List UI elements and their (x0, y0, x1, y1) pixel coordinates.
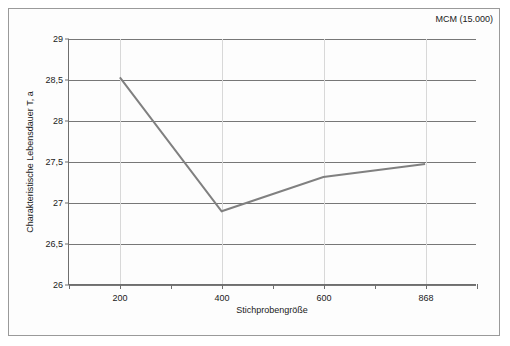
y-tick-label: 27 (53, 198, 69, 208)
series-annotation-label: MCM (15.000) (435, 14, 493, 24)
y-tick-label: 26,5 (45, 239, 69, 249)
y-tick-label: 27,5 (45, 157, 69, 167)
x-tick-label: 200 (112, 284, 127, 303)
x-tick-mark (273, 284, 274, 289)
x-axis-title: Stichprobengröße (68, 305, 476, 315)
y-axis-title: Charakteristische Lebensdauer T, a (23, 39, 37, 285)
x-tick-mark (69, 284, 70, 289)
y-tick-label: 28 (53, 116, 69, 126)
series-line-mcm (69, 39, 476, 284)
y-tick-label: 28,5 (45, 75, 69, 85)
x-tick-mark (171, 284, 172, 289)
y-tick-label: 26 (53, 280, 69, 290)
y-tick-label: 29 (53, 34, 69, 44)
x-tick-mark (477, 284, 478, 289)
x-tick-mark (375, 284, 376, 289)
series-polyline (120, 77, 425, 211)
chart-figure-frame: MCM (15.000) 2928,52827,52726,526 200400… (8, 8, 500, 336)
x-tick-label: 400 (214, 284, 229, 303)
x-tick-label: 600 (316, 284, 331, 303)
x-tick-label: 868 (418, 284, 433, 303)
plot-area: 2928,52827,52726,526 200400600868 (68, 39, 476, 285)
